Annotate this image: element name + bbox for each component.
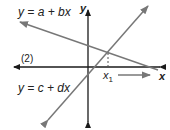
equation-1-label: y = a + bx (18, 6, 71, 18)
equation-2-label: y = c + dx (18, 82, 70, 94)
panel-label: (2) (21, 54, 33, 64)
x-axis-label: x (159, 71, 165, 82)
line-c-dx (48, 6, 148, 120)
x1-label: x1 (103, 70, 113, 84)
y-axis-label: y (80, 3, 86, 14)
line-a-bx (20, 22, 158, 70)
graph-canvas (0, 0, 170, 130)
x1-subscript: 1 (109, 75, 113, 84)
